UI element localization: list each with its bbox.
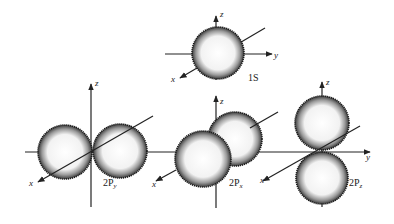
2px-lobe-front — [175, 131, 231, 187]
x-label-2pz: x — [259, 175, 264, 185]
label-2pz: 2Pz — [349, 177, 363, 190]
z-label-1s: z — [219, 9, 224, 19]
y-label-1s: y — [273, 50, 278, 60]
orbital-2pz: z y x 2Pz — [259, 77, 370, 207]
x-axis-2px-front — [156, 170, 176, 181]
orbital-diagram: z y x 1S z x 2Py z x 2Px z y x 2Pz — [0, 0, 394, 224]
y-label-2pz: y — [365, 152, 370, 162]
2pz-lobe-top — [295, 96, 349, 150]
2pz-lobe-bottom — [296, 152, 348, 204]
z-label-2pz: z — [325, 77, 330, 87]
x-label-2px: x — [151, 179, 156, 189]
label-2px: 2Px — [229, 177, 244, 190]
z-label-2px: z — [219, 96, 224, 106]
2py-lobe-left — [38, 125, 92, 179]
x-label-2py: x — [28, 178, 33, 188]
z-label-2py: z — [94, 78, 99, 88]
2py-lobe-right — [93, 124, 147, 178]
label-2py: 2Py — [103, 177, 118, 190]
x-label-1s: x — [170, 74, 175, 84]
label-1s: 1S — [248, 72, 259, 83]
1s-sphere — [192, 27, 244, 79]
orbital-1s: z y x 1S — [165, 9, 278, 84]
